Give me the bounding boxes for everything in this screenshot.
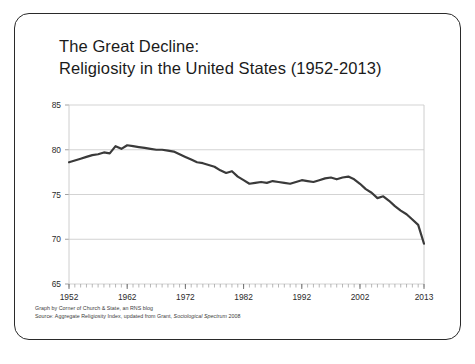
- x-axis-tick-label: 1972: [176, 292, 195, 302]
- y-axis-tick-label: 65: [52, 279, 62, 289]
- footnote-source-journal: Sociological Spectrum: [174, 313, 227, 319]
- chart-footnote: Graph by Corner of Church & State, an RN…: [35, 304, 435, 320]
- x-axis-tick-label: 1992: [292, 292, 311, 302]
- y-axis-tick-label: 75: [52, 190, 62, 200]
- footnote-source: Source: Aggregate Religiosity Index, upd…: [35, 312, 435, 320]
- footnote-source-suffix: 2008: [227, 313, 241, 319]
- x-axis-tick-label: 1982: [234, 292, 253, 302]
- x-axis-tick-label: 2002: [351, 292, 370, 302]
- y-axis-tick-label: 80: [52, 145, 62, 155]
- y-axis-tick-label: 70: [52, 234, 62, 244]
- x-axis-tick-label: 1962: [118, 292, 137, 302]
- y-axis-tick-label: 85: [52, 100, 62, 110]
- x-axis-tick-label: 2013: [415, 292, 434, 302]
- line-chart: 85807570651952196219721982199220022013: [15, 14, 461, 340]
- slide-frame: The Great Decline: Religiosity in the Un…: [14, 13, 461, 340]
- footnote-credit: Graph by Corner of Church & State, an RN…: [35, 304, 435, 312]
- x-axis-tick-label: 1952: [60, 292, 79, 302]
- chart-canvas: 85807570651952196219721982199220022013: [15, 14, 461, 340]
- footnote-source-prefix: Source: Aggregate Religiosity Index, upd…: [35, 313, 174, 319]
